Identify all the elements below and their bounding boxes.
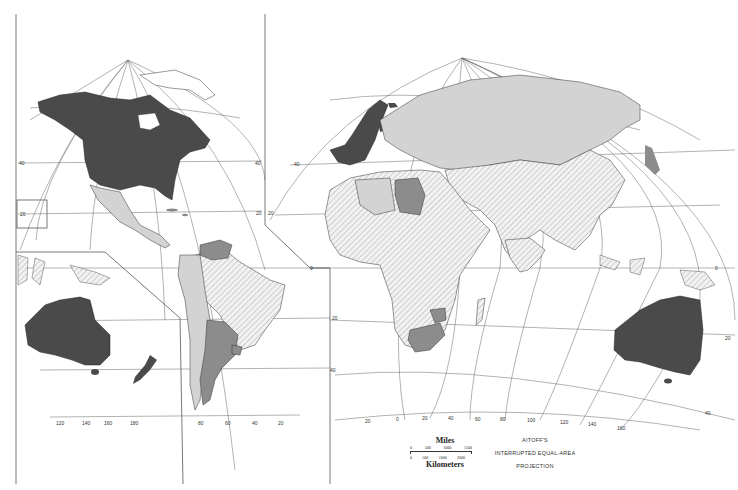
region-japan <box>645 145 660 175</box>
svg-text:160: 160 <box>104 420 113 426</box>
svg-text:40: 40 <box>19 160 25 166</box>
projection-title-2: INTERRUPTED EQUAL-AREA <box>483 450 587 456</box>
region-mexico-central-america <box>90 185 170 248</box>
svg-text:40: 40 <box>252 420 258 426</box>
svg-text:120: 120 <box>56 420 65 426</box>
svg-text:140: 140 <box>82 420 91 426</box>
svg-text:20: 20 <box>365 418 371 424</box>
region-greenland <box>140 70 215 100</box>
region-libya <box>395 178 425 215</box>
region-venezuela <box>200 240 232 260</box>
svg-text:0: 0 <box>715 265 718 271</box>
scale-line <box>410 451 472 454</box>
svg-text:40: 40 <box>448 415 454 421</box>
longitude-labels-left: 120 140 160 180 80 60 40 20 <box>56 420 284 426</box>
longitude-labels-right: 20 0 20 40 60 80 100 120 140 160 <box>365 415 626 431</box>
svg-text:20: 20 <box>332 315 338 321</box>
svg-text:20: 20 <box>422 415 428 421</box>
region-uruguay <box>232 345 242 355</box>
svg-text:80: 80 <box>500 416 506 422</box>
tasmania-right <box>664 379 672 384</box>
svg-text:20: 20 <box>268 210 274 216</box>
svg-text:60: 60 <box>225 420 231 426</box>
svg-text:160: 160 <box>617 425 626 431</box>
svg-text:40: 40 <box>294 161 300 167</box>
tasmania-left <box>91 369 99 375</box>
svg-text:60: 60 <box>475 416 481 422</box>
svg-text:20: 20 <box>725 335 731 341</box>
region-north-america <box>38 92 210 200</box>
svg-text:20: 20 <box>256 210 262 216</box>
region-australia-right <box>614 296 703 375</box>
projection-title-1: AITOFF'S <box>505 437 565 443</box>
svg-text:0: 0 <box>396 416 399 422</box>
indonesia-left <box>18 255 110 285</box>
world-map: 40 20 40 20 40 20 0 20 40 0 20 40 120 14… <box>0 0 738 490</box>
svg-text:100: 100 <box>527 417 536 423</box>
svg-text:0: 0 <box>310 265 313 271</box>
svg-text:120: 120 <box>560 419 569 425</box>
svg-text:40: 40 <box>255 160 261 166</box>
svg-text:20: 20 <box>20 211 26 217</box>
svg-text:140: 140 <box>588 421 597 427</box>
scale-miles-ticks: 0 500 1000 1500 <box>410 445 472 450</box>
region-australia-left <box>25 297 110 365</box>
svg-text:180: 180 <box>130 420 139 426</box>
region-iceland <box>388 103 398 108</box>
scale-km-label: Kilometers <box>418 460 472 469</box>
scale-bar: Miles 0 500 1000 1500 0 500 1000 2000 Ki… <box>410 436 472 469</box>
region-madagascar <box>476 298 485 325</box>
indonesia-right <box>600 255 715 290</box>
scale-miles-label: Miles <box>418 436 472 445</box>
svg-text:20: 20 <box>278 420 284 426</box>
region-india <box>505 238 545 272</box>
svg-text:80: 80 <box>198 420 204 426</box>
projection-title-3: PROJECTION <box>505 463 565 469</box>
svg-text:40: 40 <box>705 410 711 416</box>
svg-text:40: 40 <box>330 367 336 373</box>
